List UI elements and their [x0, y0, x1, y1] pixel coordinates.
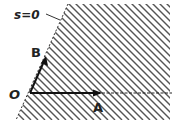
vector-b	[30, 56, 48, 93]
origin-label: O	[9, 87, 20, 102]
vector-a-label: A	[93, 100, 103, 115]
diagram: s=0 B O A	[0, 0, 178, 120]
boundary-label: s=0	[14, 8, 40, 22]
diagram-canvas: s=0 B O A	[0, 0, 178, 120]
label-leader	[46, 14, 60, 20]
vector-b-label: B	[31, 45, 41, 60]
